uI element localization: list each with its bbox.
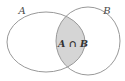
set-a-label: A (17, 5, 25, 16)
venn-diagram-canvas: A B A ∩ B (0, 0, 125, 81)
venn-diagram: A B A ∩ B (0, 0, 125, 81)
set-b-label: B (102, 5, 110, 16)
intersection-label: A ∩ B (57, 38, 88, 49)
